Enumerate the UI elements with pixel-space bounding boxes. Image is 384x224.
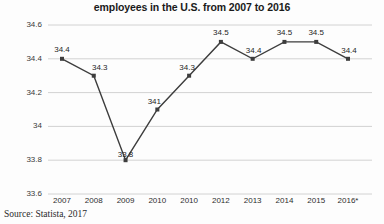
data-point-label: 34.4 [42,45,82,54]
data-point-label: 33.8 [106,150,146,159]
source-note: Source: Statista, 2017 [4,209,87,219]
data-series-line [62,42,348,160]
grid-lines [48,25,372,194]
data-point-marker [155,108,159,112]
chart-container: employees in the U.S. from 2007 to 2016 … [0,0,384,224]
data-point-marker [314,40,318,44]
data-point-marker [346,57,350,61]
data-point-marker [187,74,191,78]
data-point-label: 34.4 [329,46,369,55]
data-point-label: 34.5 [201,28,241,37]
data-point-marker [60,57,64,61]
data-point-marker [219,40,223,44]
data-point-label: 34.5 [296,28,336,37]
data-point-label: 34.3 [80,63,120,72]
data-point-label: 341 [134,97,174,106]
data-point-marker [251,57,255,61]
data-point-label: 34.3 [167,63,207,72]
data-point-marker [92,74,96,78]
data-point-label: 34.4 [234,46,274,55]
data-point-marker [282,40,286,44]
